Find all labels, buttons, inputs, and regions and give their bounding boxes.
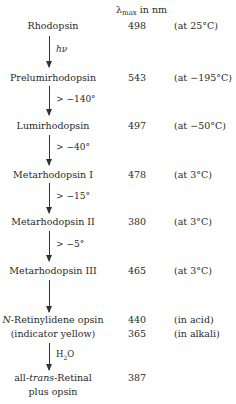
lambda-value-rhodopsin: 498 bbox=[128, 20, 146, 31]
n-prefix: N bbox=[2, 314, 10, 325]
condition-acid: (in acid) bbox=[174, 314, 214, 325]
transition-label-temp: > −15° bbox=[56, 191, 90, 201]
species-name-metarhodopsin-iii: Metarhodopsin III bbox=[0, 265, 106, 276]
down-arrow-icon bbox=[49, 183, 50, 213]
condition-metarhodopsin-i: (at 3°C) bbox=[174, 169, 212, 180]
transition-label-water: H2O bbox=[56, 349, 74, 361]
lambda-value-alkali: 365 bbox=[128, 328, 146, 339]
down-arrow-icon bbox=[49, 280, 50, 312]
lambda-subscript: max bbox=[122, 9, 137, 17]
condition-metarhodopsin-iii: (at 3°C) bbox=[174, 265, 212, 276]
lambda-value-metarhodopsin-i: 478 bbox=[128, 169, 146, 180]
species-name-all-trans-retinal: all-trans-Retinal bbox=[0, 372, 106, 383]
lambda-value-lumirhodopsin: 497 bbox=[128, 120, 146, 131]
species-name-lumirhodopsin: Lumirhodopsin bbox=[0, 120, 106, 131]
species-name-prelumirhodopsin: Prelumirhodopsin bbox=[0, 72, 106, 83]
lambda-max-header: λmax in nm bbox=[116, 4, 167, 17]
condition-rhodopsin: (at 25°C) bbox=[174, 20, 218, 31]
transition-label-temp: > −40° bbox=[56, 142, 90, 152]
lambda-value-all-trans-retinal: 387 bbox=[128, 372, 146, 383]
down-arrow-icon bbox=[49, 86, 50, 115]
condition-metarhodopsin-ii: (at 3°C) bbox=[174, 216, 212, 227]
species-name-n-retinylidene-opsin: N-Retinylidene opsin bbox=[0, 314, 106, 325]
lambda-value-metarhodopsin-ii: 380 bbox=[128, 216, 146, 227]
species-name-metarhodopsin-ii: Metarhodopsin II bbox=[0, 216, 106, 227]
down-arrow-icon bbox=[49, 231, 50, 261]
transition-label-temp: > −140° bbox=[56, 94, 96, 104]
condition-lumirhodopsin: (at −50°C) bbox=[174, 120, 226, 131]
lambda-value-prelumirhodopsin: 543 bbox=[128, 72, 146, 83]
down-arrow-icon bbox=[49, 343, 50, 370]
unit-label: in nm bbox=[140, 4, 167, 15]
condition-prelumirhodopsin: (at −195°C) bbox=[174, 72, 232, 83]
lambda-value-metarhodopsin-iii: 465 bbox=[128, 265, 146, 276]
down-arrow-icon bbox=[49, 36, 50, 67]
down-arrow-icon bbox=[49, 135, 50, 165]
condition-alkali: (in alkali) bbox=[174, 328, 220, 339]
transition-label-temp: > −5° bbox=[56, 239, 84, 249]
species-name-indicator-yellow: (indicator yellow) bbox=[0, 328, 106, 339]
species-name-rhodopsin: Rhodopsin bbox=[0, 20, 106, 31]
lambda-value-acid: 440 bbox=[128, 314, 146, 325]
transition-label-light: hν bbox=[56, 44, 67, 54]
species-name-plus-opsin: plus opsin bbox=[0, 386, 106, 397]
species-name-metarhodopsin-i: Metarhodopsin I bbox=[0, 169, 106, 180]
